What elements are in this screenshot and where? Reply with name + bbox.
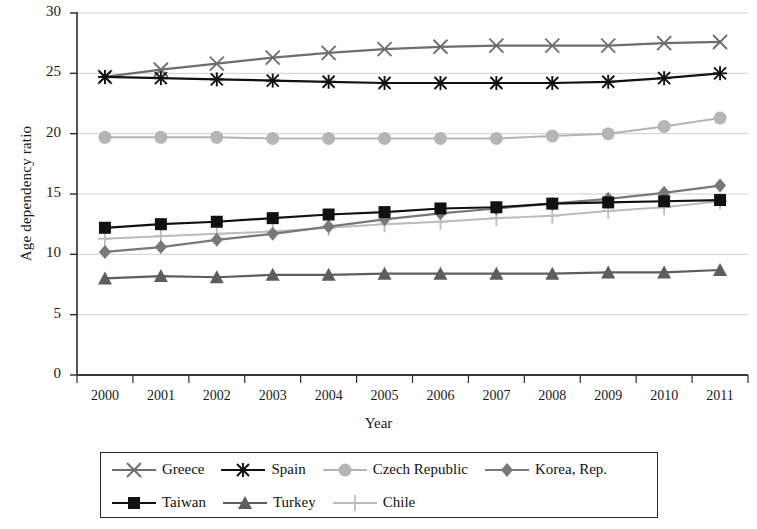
data-point-marker (211, 216, 223, 228)
data-point-marker (99, 245, 111, 259)
series-greece (98, 35, 727, 84)
legend-label: Spain (271, 461, 305, 478)
data-point-marker (266, 132, 279, 145)
series-line (105, 201, 720, 238)
legend-marker-circle-icon (322, 460, 368, 480)
x-axis-tick-label: 2007 (468, 388, 524, 404)
x-axis-tick-label: 2000 (77, 388, 133, 404)
data-point-marker (490, 201, 502, 213)
data-point-marker (378, 132, 391, 145)
legend-item-taiwan[interactable]: Taiwan (111, 493, 206, 513)
data-point-marker (434, 132, 447, 145)
data-point-marker (267, 227, 279, 241)
data-point-marker (714, 111, 727, 124)
series-czech-republic (98, 111, 726, 145)
data-point-marker (322, 132, 335, 145)
data-point-marker (714, 179, 726, 193)
x-axis-tick-label: 2008 (524, 388, 580, 404)
data-point-marker (546, 198, 558, 210)
data-point-marker (323, 209, 335, 221)
legend-item-greece[interactable]: Greece (111, 460, 204, 480)
legend-item-chile[interactable]: Chile (332, 493, 416, 513)
data-point-marker (658, 195, 670, 207)
data-point-marker (128, 497, 140, 509)
series-line (105, 42, 720, 77)
legend-item-korea-rep[interactable]: Korea, Rep. (484, 460, 607, 480)
legend-label: Czech Republic (373, 461, 468, 478)
y-axis-tick-label: 0 (21, 365, 61, 382)
data-point-marker (154, 131, 167, 144)
series-line (105, 118, 720, 139)
legend-item-spain[interactable]: Spain (220, 460, 305, 480)
data-point-marker (501, 463, 513, 477)
y-axis-tick-label: 10 (21, 244, 61, 261)
data-point-marker (99, 222, 111, 234)
series-taiwan (99, 194, 726, 234)
series-korea-rep (99, 179, 726, 259)
data-point-marker (338, 463, 351, 476)
legend-marker-square-icon (111, 493, 157, 513)
line-chart: Age dependency ratio 302520151050 200020… (0, 0, 757, 529)
x-axis-tick-label: 2006 (412, 388, 468, 404)
series-line (105, 73, 720, 83)
legend-row: GreeceSpainCzech RepublicKorea, Rep. (101, 453, 657, 486)
legend-label: Chile (383, 494, 416, 511)
series-line (105, 270, 720, 278)
legend-marker-diamond-icon (484, 460, 530, 480)
chart-legend: GreeceSpainCzech RepublicKorea, Rep. Tai… (100, 452, 658, 518)
series-spain (98, 66, 727, 90)
legend-marker-plus-icon (332, 493, 378, 513)
legend-marker-x-cross-icon (111, 460, 157, 480)
legend-item-czech-republic[interactable]: Czech Republic (322, 460, 468, 480)
data-point-marker (267, 212, 279, 224)
legend-label: Korea, Rep. (535, 461, 607, 478)
y-axis-tick-label: 30 (21, 3, 61, 20)
x-axis-tick-label: 2009 (580, 388, 636, 404)
series-line (105, 186, 720, 252)
x-axis-tick-label: 2005 (357, 388, 413, 404)
y-axis-tick-label: 20 (21, 124, 61, 141)
legend-label: Turkey (273, 494, 316, 511)
y-axis-tick-label: 15 (21, 184, 61, 201)
legend-row: TaiwanTurkeyChile (101, 486, 657, 519)
data-point-marker (323, 220, 335, 234)
y-axis-tick-label: 5 (21, 305, 61, 322)
data-point-marker (546, 130, 559, 143)
data-point-marker (98, 131, 111, 144)
x-axis-tick-label: 2001 (133, 388, 189, 404)
x-axis-tick-label: 2003 (245, 388, 301, 404)
x-axis-tick-label: 2011 (692, 388, 748, 404)
plot-area (0, 0, 757, 400)
data-point-marker (210, 131, 223, 144)
data-point-marker (490, 132, 503, 145)
x-axis-tick-label: 2010 (636, 388, 692, 404)
data-point-marker (602, 196, 614, 208)
x-axis-tick-label: 2002 (189, 388, 245, 404)
data-point-marker (658, 120, 671, 133)
legend-marker-asterisk-icon (220, 460, 266, 480)
data-point-marker (602, 127, 615, 140)
x-axis-tick-label: 2004 (301, 388, 357, 404)
y-axis-tick-label: 25 (21, 63, 61, 80)
legend-item-turkey[interactable]: Turkey (222, 493, 316, 513)
data-point-marker (155, 240, 167, 254)
legend-marker-triangle-icon (222, 493, 268, 513)
data-point-marker (714, 194, 726, 206)
data-point-marker (155, 218, 167, 230)
legend-label: Greece (162, 461, 204, 478)
series-turkey (98, 263, 727, 284)
data-point-marker (434, 202, 446, 214)
x-axis-title: Year (0, 415, 757, 432)
data-point-marker (379, 206, 391, 218)
legend-label: Taiwan (162, 494, 206, 511)
